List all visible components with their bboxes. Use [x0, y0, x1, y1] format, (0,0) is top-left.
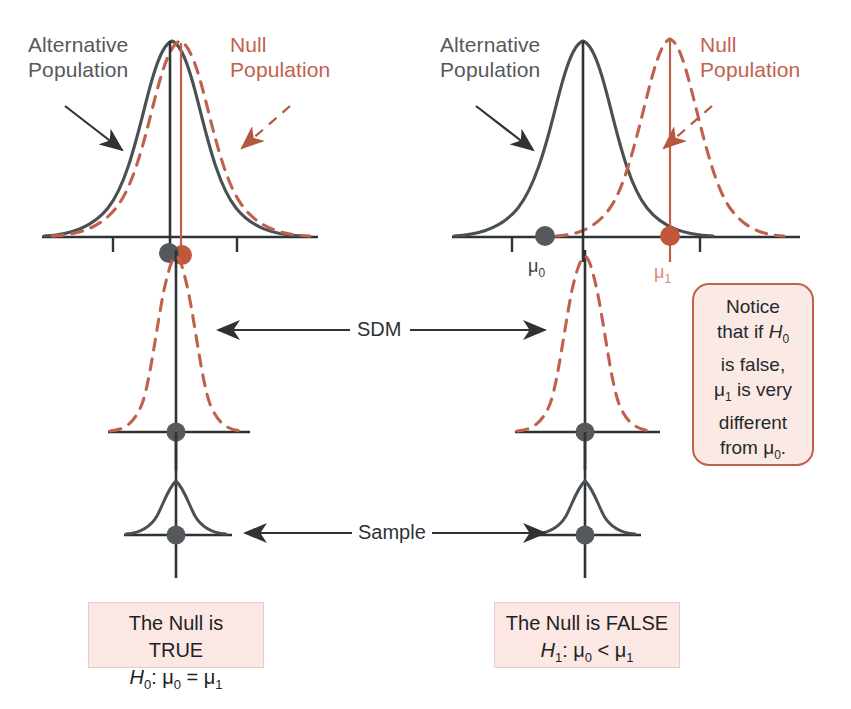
- mu1-axis-label: μ1: [654, 262, 671, 286]
- figure-canvas: Alternative Population Null Population A…: [0, 0, 851, 709]
- right-panel-sample-tier: [533, 432, 641, 578]
- conclusion-left-expression: : μ0 = μ1: [151, 666, 222, 688]
- left-panel-sdm-tier: [108, 250, 250, 470]
- mu1-dot: [660, 226, 680, 246]
- sample-mean-dot-left: [167, 526, 186, 545]
- sample-mean-dot-right: [576, 526, 595, 545]
- null-population-pointer-left: [242, 106, 290, 148]
- conclusion-box-left: The Null is TRUE H0: μ0 = μ1: [88, 602, 264, 668]
- callout-box: Notice that if H0 is false, μ1 is very d…: [692, 283, 814, 466]
- left-panel-sample-tier: [124, 432, 232, 578]
- mu0-axis-label: μ0: [528, 256, 545, 280]
- conclusion-right-expression: : μ0 < μ1: [562, 639, 633, 661]
- null-population-label-right: Null Population: [700, 32, 800, 82]
- sdm-connector-label: SDM: [357, 318, 401, 341]
- alt-population-pointer-left: [65, 106, 122, 150]
- alt-population-pointer-right: [476, 106, 533, 150]
- conclusion-left-hypothesis: H0: μ0 = μ1: [99, 664, 253, 698]
- null-population-label-left: Null Population: [230, 32, 330, 82]
- conclusion-box-right: The Null is FALSE H1: μ0 < μ1: [494, 602, 680, 668]
- null-population-pointer-right: [664, 106, 712, 148]
- right-panel-sdm-tier: [515, 250, 660, 470]
- sample-connector-label: Sample: [358, 521, 426, 544]
- conclusion-right-hypothesis: H1: μ0 < μ1: [505, 637, 669, 671]
- alt-population-label-right: Alternative Population: [440, 32, 540, 82]
- mu0-dot: [535, 226, 555, 246]
- alt-population-label-left: Alternative Population: [28, 32, 128, 82]
